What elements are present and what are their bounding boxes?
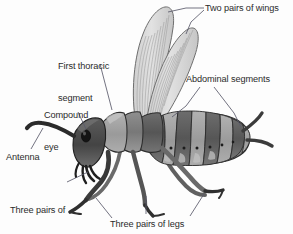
leader-wings <box>168 8 204 12</box>
label-compound-eye: Compound eye <box>44 89 88 174</box>
label-line: eye <box>44 142 88 153</box>
label-line: Three pairs of <box>10 205 65 216</box>
label-two-pairs-of-wings: Two pairs of wings <box>205 3 279 14</box>
label-antenna: Antenna <box>6 152 40 163</box>
leader-legs-1 <box>96 198 112 218</box>
leader-legs-3 <box>190 194 204 216</box>
label-line: Compound <box>44 110 88 121</box>
leader-antenna <box>31 128 43 149</box>
label-three-pairs-of-legs: Three pairs of legs <box>110 219 184 230</box>
label-line: First thoracic <box>58 61 109 72</box>
insect-anatomy-diagram: Two pairs of wings First thoracic segmen… <box>0 0 293 234</box>
thorax <box>100 112 163 153</box>
label-abdominal-segments: Abdominal segments <box>186 74 270 85</box>
label-three-pairs-of-mouthparts: Three pairs of mouthparts <box>10 184 65 234</box>
cerci <box>243 113 272 146</box>
